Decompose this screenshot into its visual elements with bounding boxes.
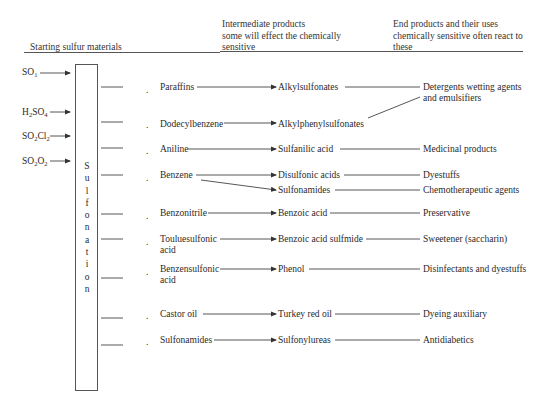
connector-lines — [0, 0, 545, 409]
